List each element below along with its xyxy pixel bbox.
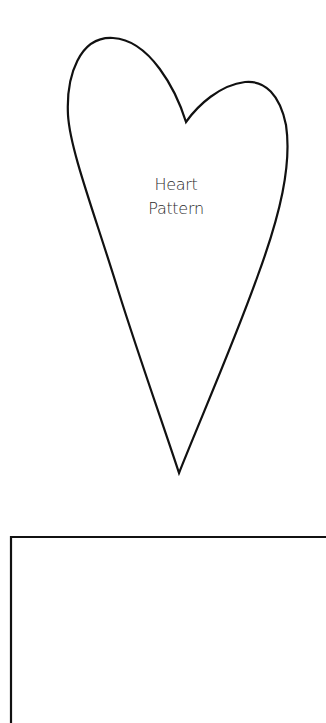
- pattern-title-line2: Pattern: [126, 198, 226, 220]
- heart-outline: [68, 38, 288, 473]
- square-outline: [11, 537, 326, 723]
- pattern-canvas: [0, 0, 326, 723]
- pattern-title-line1: Heart: [126, 174, 226, 196]
